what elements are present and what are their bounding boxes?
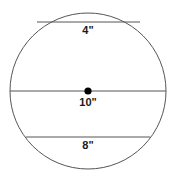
- circle-diagram-figure: 4" 10" 8": [0, 0, 178, 181]
- bottom-chord-label: 8": [82, 139, 93, 151]
- center-dot: [84, 87, 91, 94]
- top-chord-label: 4": [82, 24, 93, 36]
- diameter-label: 10": [79, 96, 96, 108]
